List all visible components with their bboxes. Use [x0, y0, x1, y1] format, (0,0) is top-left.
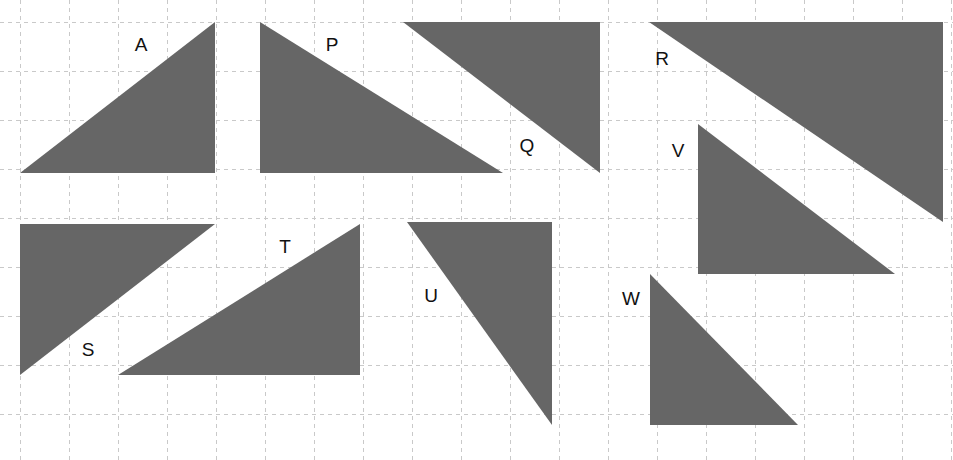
triangle-label-p: P	[326, 34, 339, 55]
triangle-label-r: R	[655, 48, 669, 69]
triangle-label-a: A	[135, 34, 148, 55]
triangle-label-u: U	[424, 285, 438, 306]
figure-canvas: APQRSTUVW	[0, 0, 953, 460]
triangle-label-v: V	[672, 140, 685, 161]
triangle-label-q: Q	[520, 135, 535, 156]
triangle-label-s: S	[82, 339, 95, 360]
triangle-label-w: W	[622, 288, 640, 309]
triangle-label-t: T	[279, 236, 291, 257]
triangles-diagram: APQRSTUVW	[0, 0, 953, 460]
